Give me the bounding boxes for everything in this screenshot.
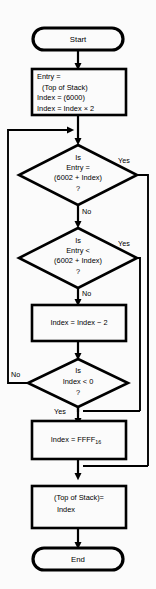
flowchart-canvas: Start Entry = (Top of Stack) Index = (60…	[0, 0, 156, 589]
node-init: Entry = (Top of Stack) Index = (6000) In…	[32, 69, 126, 115]
flowchart-svg: Start Entry = (Top of Stack) Index = (60…	[0, 0, 156, 589]
decision-negative-line3: ?	[76, 388, 80, 397]
decision-less-line4: ?	[76, 267, 80, 276]
init-line4: Index = Index × 2	[37, 104, 94, 113]
init-line3: Index = (6000)	[37, 93, 85, 102]
decision-negative-line2: Index < 0	[63, 377, 94, 386]
start-label: Start	[70, 35, 87, 44]
store-line1: (Top of Stack)=	[54, 493, 104, 502]
set-ffff-value: Index = FFFF	[51, 435, 96, 444]
edge-decision-less-yes	[137, 258, 140, 411]
decision-negative-line1: Is	[75, 366, 81, 375]
init-line2: (Top of Stack)	[42, 83, 88, 92]
init-line1: Entry =	[37, 72, 61, 81]
label-decision-equal-yes: Yes	[118, 156, 130, 165]
decision-equal-line3: (6002 + Index)	[54, 173, 102, 182]
node-decision-less: Is Entry < (6002 + Index) ?	[19, 228, 137, 288]
set-ffff-line1: Index = FFFF16	[51, 435, 102, 445]
node-end: End	[33, 548, 123, 570]
decision-equal-line4: ?	[76, 184, 80, 193]
node-set-ffff: Index = FFFF16	[32, 421, 126, 459]
node-decision-equal: Is Entry = (6002 + Index) ?	[19, 145, 137, 205]
node-decrement: Index = Index − 2	[32, 305, 126, 341]
decrement-line1: Index = Index − 2	[50, 318, 107, 327]
store-line2: Index	[57, 505, 75, 514]
edge-decision-equal-yes	[137, 175, 148, 466]
decision-less-line1: Is	[75, 236, 81, 245]
node-decision-negative: Is Index < 0 ?	[28, 359, 128, 407]
decision-equal-line1: Is	[75, 153, 81, 162]
node-store: (Top of Stack)= Index	[32, 486, 126, 528]
label-decision-negative-no: No	[11, 370, 20, 379]
label-decision-less-no: No	[82, 289, 91, 298]
label-decision-equal-no: No	[82, 207, 91, 216]
label-decision-negative-yes: Yes	[54, 407, 66, 416]
decision-equal-line2: Entry =	[66, 163, 90, 172]
end-label: End	[71, 555, 85, 564]
node-start: Start	[33, 28, 123, 50]
set-ffff-subscript: 16	[95, 439, 101, 445]
decision-less-line2: Entry <	[66, 246, 90, 255]
decision-less-line3: (6002 + Index)	[54, 256, 102, 265]
label-decision-less-yes: Yes	[118, 239, 130, 248]
